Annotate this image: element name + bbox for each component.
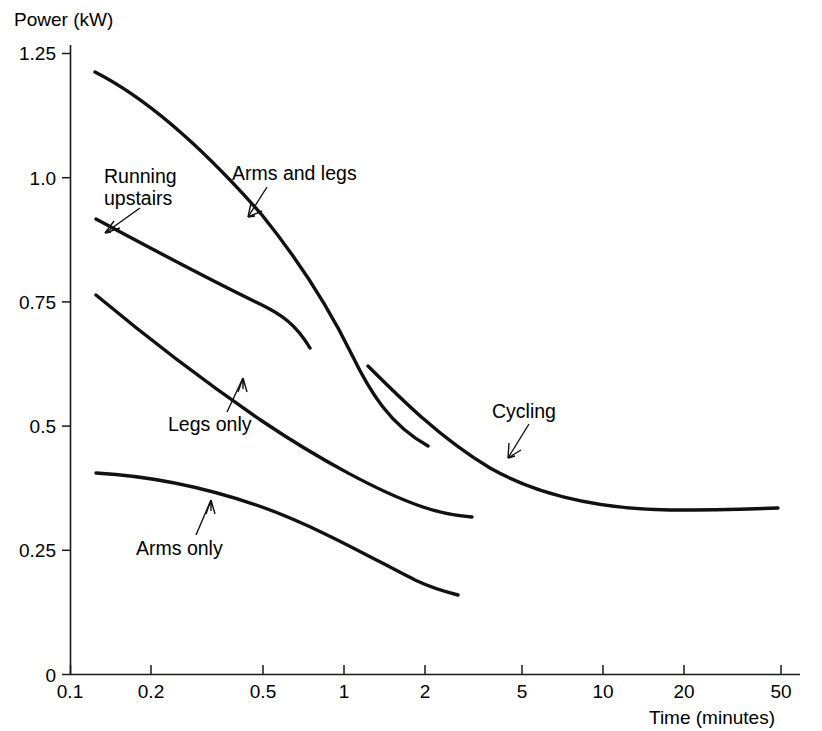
curve-cycling <box>368 366 778 510</box>
y-tick-label-0.25: 0.25 <box>19 540 56 561</box>
curve-legs-only <box>96 295 472 517</box>
y-tick-labels-group: 1.25 1.0 0.75 0.5 0.25 0 <box>19 43 56 686</box>
x-tick-label-10: 10 <box>592 681 613 702</box>
x-axis-title: Time (minutes) <box>649 707 775 728</box>
x-tick-label-20: 20 <box>673 681 694 702</box>
series-label-arms-only: Arms only <box>136 537 223 559</box>
x-tick-label-2: 2 <box>420 681 431 702</box>
curve-arms-and-legs <box>95 72 428 446</box>
y-tick-label-1.0: 1.0 <box>30 168 56 189</box>
y-tick-label-0.5: 0.5 <box>30 416 56 437</box>
series-label-cycling: Cycling <box>492 400 556 422</box>
x-tick-label-0.2: 0.2 <box>138 681 164 702</box>
curve-running-upstairs <box>96 219 310 348</box>
x-tick-label-50: 50 <box>770 681 791 702</box>
x-tick-labels-group: 0.1 0.2 0.5 1 2 5 10 20 50 <box>57 681 792 702</box>
series-label-running-upstairs-line2: upstairs <box>104 187 173 209</box>
power-vs-time-chart: 1.25 1.0 0.75 0.5 0.25 0 0.1 0.2 0.5 1 2 <box>0 0 822 731</box>
y-tick-label-0.75: 0.75 <box>19 292 56 313</box>
series-label-legs-only: Legs only <box>168 413 252 435</box>
y-tick-label-1.25: 1.25 <box>19 43 56 64</box>
leader-cycling <box>508 424 529 458</box>
x-tick-label-0.1: 0.1 <box>57 681 83 702</box>
y-tick-label-0: 0 <box>45 665 56 686</box>
series-labels-group: Running upstairs Arms and legs Legs only… <box>104 162 556 559</box>
series-label-running-upstairs-line1: Running <box>104 165 177 187</box>
x-ticks-group <box>71 665 782 675</box>
chart-svg: 1.25 1.0 0.75 0.5 0.25 0 0.1 0.2 0.5 1 2 <box>0 0 822 731</box>
series-curves-group <box>95 72 778 595</box>
x-tick-label-1: 1 <box>339 681 350 702</box>
x-tick-label-5: 5 <box>517 681 528 702</box>
curve-arms-only <box>96 473 458 595</box>
leader-running-upstairs <box>105 208 140 233</box>
y-axis-title: Power (kW) <box>14 9 113 30</box>
series-label-arms-and-legs: Arms and legs <box>232 162 357 184</box>
x-tick-label-0.5: 0.5 <box>250 681 276 702</box>
y-ticks-group <box>62 54 71 675</box>
